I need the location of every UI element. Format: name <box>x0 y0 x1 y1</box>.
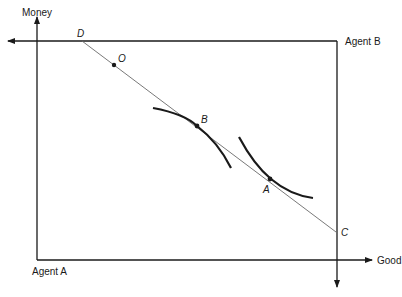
point-c-label: C <box>341 227 349 238</box>
point-b-label: B <box>201 114 208 125</box>
edgeworth-box-diagram: Money Agent B Good Agent A D O B A C <box>0 0 402 297</box>
money-axis-label: Money <box>22 7 52 18</box>
good-axis-label: Good <box>377 255 401 266</box>
point-b <box>195 124 200 129</box>
agent-b-label: Agent B <box>345 36 381 47</box>
indifference-curve-b <box>153 108 231 168</box>
agent-a-label: Agent A <box>32 266 67 277</box>
point-o <box>112 63 116 67</box>
point-a <box>268 177 273 182</box>
point-d-label: D <box>77 28 84 39</box>
point-a-label: A <box>262 184 270 195</box>
point-o-label: O <box>118 53 126 64</box>
